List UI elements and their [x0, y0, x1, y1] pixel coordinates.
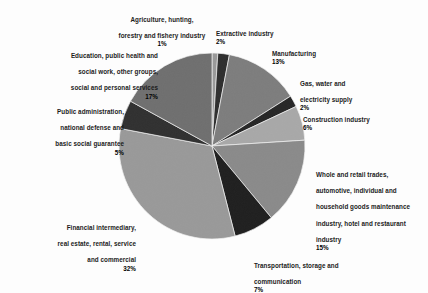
pie-label-education-health: Education, public health and social work…: [10, 44, 158, 101]
pie-label-transport-line1: Transportation, storage and: [254, 262, 339, 269]
pie-label-education-line1: Education, public health and: [71, 52, 158, 59]
pie-label-gas-line2: electricity supply: [300, 96, 352, 103]
pie-label-publicadmin-line1: Public administration,: [57, 108, 124, 115]
pie-label-publicadmin-line3: basic social guarantee: [55, 140, 124, 147]
pie-label-wholesale-line2: automotive, individual and: [316, 187, 397, 194]
pie-label-wholesale-line4: industry, hotel and restaurant: [316, 220, 406, 227]
pie-label-transport-pct: 7%: [254, 286, 263, 293]
pie-label-financial-intermediary: Financial intermediary, real estate, ren…: [8, 216, 136, 273]
pie-label-gas-water-electricity: Gas, water and electricity supply 2%: [300, 72, 396, 112]
pie-label-financial-line3: and commercial: [87, 256, 136, 263]
pie-label-manufacturing-line1: Manufacturing: [272, 50, 316, 57]
pie-label-manufacturing: Manufacturing 13%: [272, 42, 382, 66]
pie-label-financial-line2: real estate, rental, service: [58, 240, 136, 247]
pie-label-public-administration: Public administration, national defense …: [2, 100, 124, 157]
pie-label-publicadmin-line2: national defense and: [60, 124, 124, 131]
pie-label-agriculture-line1: Agriculture, hunting,: [131, 16, 194, 23]
pie-label-education-line3: social and personal services: [71, 84, 158, 91]
pie-label-financial-line1: Financial intermediary,: [67, 224, 136, 231]
pie-label-wholesale-line1: Whole and retail trades,: [316, 171, 388, 178]
pie-label-financial-pct: 32%: [123, 265, 136, 272]
pie-label-extractive-line1: Extractive industry: [216, 30, 274, 37]
pie-label-construction-line1: Construction industry: [303, 116, 370, 123]
pie-label-wholesale-retail: Whole and retail trades, automotive, ind…: [316, 163, 424, 252]
pie-label-education-line2: social work, other groups,: [78, 68, 158, 75]
pie-label-manufacturing-pct: 13%: [272, 58, 285, 65]
pie-chart-figure: Agriculture, hunting, forestry and fishe…: [0, 0, 428, 293]
pie-label-transportation: Transportation, storage and communicatio…: [254, 254, 374, 293]
pie-label-transport-line2: communication: [254, 278, 301, 285]
pie-label-gas-line1: Gas, water and: [300, 80, 346, 87]
pie-label-construction-pct: 6%: [303, 124, 312, 131]
pie-label-wholesale-line5: industry: [316, 236, 341, 243]
pie-label-agriculture-line2: forestry and fishery industry: [119, 32, 206, 39]
pie-label-agriculture: Agriculture, hunting, forestry and fishe…: [97, 8, 227, 48]
pie-label-agriculture-pct: 1%: [157, 40, 166, 47]
pie-label-construction: Construction industry 6%: [303, 108, 423, 132]
pie-label-wholesale-line3: household goods maintenance: [316, 203, 410, 210]
pie-label-extractive-pct: 2%: [216, 38, 225, 45]
pie-label-publicadmin-pct: 5%: [115, 149, 124, 156]
pie-label-education-pct: 17%: [145, 93, 158, 100]
pie-label-wholesale-pct: 15%: [316, 244, 329, 251]
